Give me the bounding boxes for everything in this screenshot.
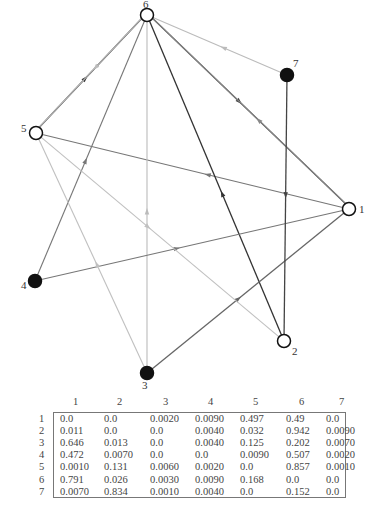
matrix-cell: 0.857 bbox=[286, 461, 310, 472]
graph-nodes: 1234567 bbox=[21, 0, 365, 391]
matrix-cell: 0.0040 bbox=[195, 437, 224, 448]
column-header: 6 bbox=[299, 396, 304, 407]
matrix-cell: 0.834 bbox=[104, 486, 128, 497]
column-header: 4 bbox=[208, 396, 213, 407]
matrix-cell: 0.0010 bbox=[60, 461, 89, 472]
matrix-cell: 0.0 bbox=[150, 437, 163, 448]
matrix-cell: 0.0020 bbox=[326, 449, 355, 460]
arrow-icon bbox=[283, 192, 287, 198]
node-1 bbox=[343, 203, 356, 216]
node-label-2: 2 bbox=[292, 345, 298, 357]
arrow-icon bbox=[204, 173, 211, 177]
matrix-cell: 0.0 bbox=[326, 486, 339, 497]
matrix-cell: 0.013 bbox=[104, 437, 128, 448]
matrix-cell: 0.0070 bbox=[326, 437, 355, 448]
matrix-cell: 0.0040 bbox=[195, 425, 224, 436]
graph-edges bbox=[38, 18, 346, 369]
transition-graph: 1234567 bbox=[0, 0, 386, 396]
matrix-cell: 0.0 bbox=[286, 474, 299, 485]
edge-7-to-2 bbox=[284, 81, 287, 334]
row-header: 5 bbox=[39, 461, 44, 472]
matrix-cell: 0.0030 bbox=[150, 474, 179, 485]
matrix-cell: 0.0090 bbox=[195, 474, 224, 485]
column-header: 7 bbox=[339, 396, 344, 407]
row-header: 3 bbox=[39, 437, 44, 448]
matrix-cell: 0.0010 bbox=[150, 486, 179, 497]
row-header: 2 bbox=[39, 425, 44, 436]
matrix-cell: 0.507 bbox=[286, 449, 310, 460]
edge-4-to-1 bbox=[41, 210, 342, 279]
row-header: 1 bbox=[39, 413, 44, 424]
edge-1-to-6 bbox=[153, 18, 346, 203]
matrix-cell: 0.0070 bbox=[60, 486, 89, 497]
node-3 bbox=[141, 367, 154, 380]
matrix-cell: 0.0 bbox=[195, 449, 208, 460]
node-6 bbox=[141, 9, 154, 22]
matrix-cell: 0.0 bbox=[150, 425, 163, 436]
matrix-cell: 0.0040 bbox=[195, 486, 224, 497]
row-header: 6 bbox=[39, 474, 44, 485]
matrix-cell: 0.791 bbox=[60, 474, 84, 485]
node-label-4: 4 bbox=[21, 279, 27, 291]
matrix-cell: 0.0060 bbox=[150, 461, 179, 472]
node-label-5: 5 bbox=[21, 122, 27, 134]
edge-3-to-5 bbox=[39, 139, 145, 367]
column-header: 2 bbox=[117, 396, 122, 407]
matrix-cell: 0.0090 bbox=[326, 425, 355, 436]
matrix-cell: 0.646 bbox=[60, 437, 84, 448]
arrow-icon bbox=[220, 46, 227, 51]
edge-6-to-5 bbox=[39, 19, 141, 128]
matrix-cell: 0.032 bbox=[240, 425, 264, 436]
matrix-cell: 0.0 bbox=[104, 413, 117, 424]
arrow-icon bbox=[221, 191, 226, 198]
matrix-cell: 0.168 bbox=[240, 474, 264, 485]
matrix-cell: 0.125 bbox=[240, 437, 264, 448]
matrix-cell: 0.011 bbox=[60, 425, 83, 436]
matrix-cell: 0.0 bbox=[326, 413, 339, 424]
matrix-cell: 0.49 bbox=[286, 413, 304, 424]
matrix-cell: 0.0 bbox=[240, 486, 253, 497]
edge-2-to-6 bbox=[150, 21, 282, 335]
arrow-icon bbox=[82, 158, 87, 165]
matrix-cell: 0.0 bbox=[240, 461, 253, 472]
column-header: 3 bbox=[163, 396, 168, 407]
matrix-cell: 0.0020 bbox=[195, 461, 224, 472]
matrix-cell: 0.0010 bbox=[326, 461, 355, 472]
matrix-cell: 0.472 bbox=[60, 449, 84, 460]
matrix-cell: 0.942 bbox=[286, 425, 310, 436]
matrix-cell: 0.0020 bbox=[150, 413, 179, 424]
column-header: 1 bbox=[73, 396, 78, 407]
node-7 bbox=[281, 69, 294, 82]
matrix-cell: 0.0090 bbox=[195, 413, 224, 424]
matrix-cell: 0.202 bbox=[286, 437, 310, 448]
matrix-cell: 0.131 bbox=[104, 461, 128, 472]
edge-7-to-6 bbox=[153, 18, 281, 73]
matrix-cell: 0.0 bbox=[104, 425, 117, 436]
node-4 bbox=[29, 275, 42, 288]
row-header: 7 bbox=[39, 486, 44, 497]
matrix-cell: 0.0070 bbox=[104, 449, 133, 460]
node-label-3: 3 bbox=[142, 379, 148, 391]
node-label-7: 7 bbox=[293, 57, 299, 69]
matrix-cell: 0.152 bbox=[286, 486, 310, 497]
row-header: 4 bbox=[39, 449, 44, 460]
node-label-6: 6 bbox=[143, 0, 149, 10]
node-2 bbox=[278, 335, 291, 348]
matrix-cell: 0.0 bbox=[60, 413, 73, 424]
edge-1-to-5 bbox=[42, 135, 342, 208]
node-5 bbox=[30, 127, 43, 140]
matrix-cell: 0.026 bbox=[104, 474, 128, 485]
matrix-cell: 0.0 bbox=[150, 449, 163, 460]
matrix-cell: 0.0090 bbox=[240, 449, 269, 460]
arrow-icon bbox=[95, 262, 100, 269]
edge-5-to-2 bbox=[41, 137, 279, 337]
matrix-cell: 0.497 bbox=[240, 413, 264, 424]
arrow-icon bbox=[145, 208, 149, 214]
matrix-cell: 0.0 bbox=[326, 474, 339, 485]
column-header: 5 bbox=[253, 396, 258, 407]
edge-3-to-1 bbox=[152, 213, 344, 369]
node-label-1: 1 bbox=[359, 203, 365, 215]
